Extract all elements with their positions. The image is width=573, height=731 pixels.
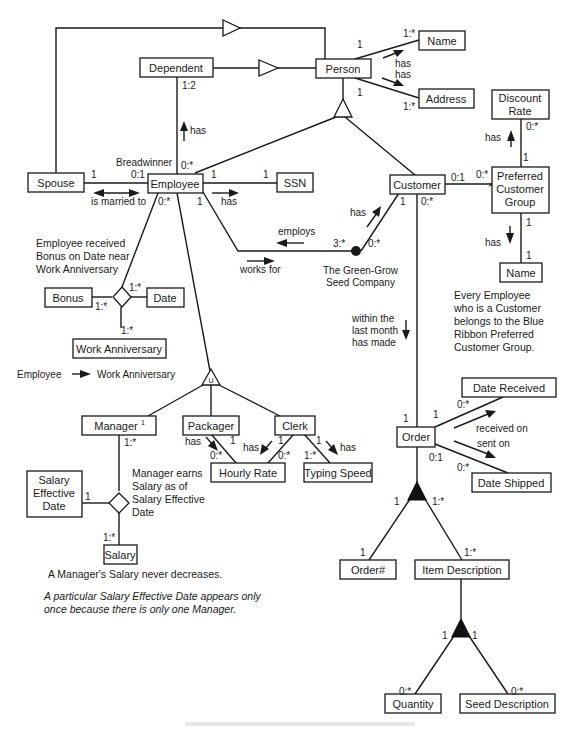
svg-text:Group: Group xyxy=(505,196,536,208)
svg-text:Date Shipped: Date Shipped xyxy=(478,477,545,489)
svg-text:1:*: 1:* xyxy=(403,28,415,39)
entity-dependent[interactable]: Dependent xyxy=(140,58,213,77)
entity-name-pcg[interactable]: Name xyxy=(500,263,542,282)
svg-text:1: 1 xyxy=(526,250,532,261)
label-clerk-typing-has: has xyxy=(340,442,356,453)
arrow-clerk-hourly-has xyxy=(260,441,272,455)
entity-name-top[interactable]: Name xyxy=(419,31,465,50)
label-pcg-discount-has: has xyxy=(485,132,501,143)
entity-employee[interactable]: Employee xyxy=(148,174,203,193)
svg-text:Person: Person xyxy=(326,63,361,75)
agg-seed-line xyxy=(469,636,508,694)
svg-text:Customer Group.: Customer Group. xyxy=(454,341,535,353)
svg-text:SSN: SSN xyxy=(284,177,307,189)
entity-date-received[interactable]: Date Received xyxy=(462,378,556,397)
entity-address[interactable]: Address xyxy=(419,89,474,108)
label-clerk-hourly-has: has xyxy=(243,442,259,453)
svg-text:0:1: 0:1 xyxy=(131,169,145,180)
generalization-triangle-dependent xyxy=(259,60,278,76)
svg-text:Customer: Customer xyxy=(496,183,544,195)
entity-salary-effective-date[interactable]: Salary Effective Date xyxy=(27,471,82,517)
entity-spouse[interactable]: Spouse xyxy=(28,173,84,192)
employee-subtype-line xyxy=(177,193,210,371)
svg-text:1: 1 xyxy=(523,152,529,163)
arrow-has-made xyxy=(402,320,410,340)
subtype-clerk-line xyxy=(219,385,280,416)
svg-text:Preferred: Preferred xyxy=(497,170,543,182)
entity-manager[interactable]: Manager 1 xyxy=(82,416,156,435)
note-bonus: Employee received Bonus on Date near Wor… xyxy=(36,237,130,275)
label-person-address-has: has xyxy=(395,69,411,80)
svg-text:once because there is only one: once because there is only one Manager. xyxy=(44,603,236,615)
aggregation-triangle-order xyxy=(408,482,426,500)
agg-item-line xyxy=(425,499,462,560)
svg-text:Date: Date xyxy=(153,292,176,304)
label-employee-ssn-has: has xyxy=(221,196,237,207)
label-made-3: has made xyxy=(352,337,396,348)
svg-text:0:1: 0:1 xyxy=(451,172,465,183)
label-breadwinner: Breadwinner xyxy=(116,157,173,168)
entity-date-shipped[interactable]: Date Shipped xyxy=(472,473,551,492)
svg-text:A particular Salary Effective: A particular Salary Effective Date appea… xyxy=(43,590,261,602)
entity-clerk[interactable]: Clerk xyxy=(275,416,315,435)
employee-bonus-line xyxy=(122,193,158,287)
svg-text:1:*: 1:* xyxy=(124,437,136,448)
svg-text:0:*: 0:* xyxy=(368,238,380,249)
svg-text:Order#: Order# xyxy=(351,564,386,576)
entity-item-description[interactable]: Item Description xyxy=(415,560,509,579)
label-employs: employs xyxy=(278,226,315,237)
svg-text:0:*: 0:* xyxy=(158,196,170,207)
entity-person[interactable]: Person xyxy=(316,59,371,78)
arrow-employs xyxy=(276,239,304,247)
svg-text:1: 1 xyxy=(211,169,217,180)
entity-bonus[interactable]: Bonus xyxy=(45,288,92,307)
label-pcg-name-has: has xyxy=(485,237,501,248)
arrow-dependent-has xyxy=(180,121,188,141)
aggregation-triangle-item xyxy=(452,619,470,637)
svg-text:Ribbon Preferred: Ribbon Preferred xyxy=(454,328,534,340)
svg-text:1: 1 xyxy=(263,169,269,180)
svg-text:Date Received: Date Received xyxy=(473,382,545,394)
entity-salary[interactable]: Salary xyxy=(104,545,137,564)
svg-text:Salary Effective: Salary Effective xyxy=(132,493,205,505)
svg-text:1: 1 xyxy=(357,39,363,50)
subtype-customer-line xyxy=(345,117,415,175)
svg-text:1: 1 xyxy=(442,630,448,641)
entity-ssn[interactable]: SSN xyxy=(277,173,313,192)
entity-quantity[interactable]: Quantity xyxy=(385,694,441,713)
svg-text:Bonus on Date near: Bonus on Date near xyxy=(36,250,130,262)
salary-association-diamond xyxy=(109,493,129,513)
entity-hourly-rate[interactable]: Hourly Rate xyxy=(211,463,285,482)
agg-quantity-line xyxy=(415,636,454,694)
subtype-manager-line xyxy=(148,385,203,416)
entity-work-anniversary[interactable]: Work Anniversary xyxy=(73,339,166,358)
svg-text:Address: Address xyxy=(426,93,467,105)
label-dependent-has: has xyxy=(190,125,206,136)
svg-text:Employee: Employee xyxy=(151,178,200,190)
symbols: U × xyxy=(72,20,515,637)
entity-preferred-customer-group[interactable]: Preferred Customer Group xyxy=(492,167,549,213)
svg-text:Work Anniversary: Work Anniversary xyxy=(36,263,119,275)
entity-customer[interactable]: Customer xyxy=(390,175,445,194)
svg-text:belongs to the Blue: belongs to the Blue xyxy=(454,315,544,327)
svg-text:Customer: Customer xyxy=(393,179,441,191)
caption-placeholder xyxy=(185,722,415,726)
entity-order[interactable]: Order xyxy=(397,427,435,447)
entity-seed-description[interactable]: Seed Description xyxy=(460,694,555,713)
entity-date[interactable]: Date xyxy=(147,288,184,307)
entity-packager[interactable]: Packager xyxy=(183,416,239,435)
svg-text:Item Description: Item Description xyxy=(422,564,501,576)
entity-order-number[interactable]: Order# xyxy=(340,560,396,579)
label-works-for: works for xyxy=(239,264,281,275)
svg-text:Manager earns: Manager earns xyxy=(132,467,203,479)
svg-text:Order: Order xyxy=(402,431,430,443)
svg-text:1:*: 1:* xyxy=(121,325,133,336)
svg-text:Hourly Rate: Hourly Rate xyxy=(219,467,277,479)
arrow-pcg-discount-has xyxy=(507,130,515,147)
entity-typing-speed[interactable]: Typing Speed xyxy=(304,463,372,482)
svg-text:Dependent: Dependent xyxy=(149,62,203,74)
svg-text:0:*: 0:* xyxy=(476,169,488,180)
spouse-person-generalization-line xyxy=(56,28,325,173)
entity-discount-rate[interactable]: Discount Rate xyxy=(492,90,549,119)
svg-text:Discount: Discount xyxy=(499,92,542,104)
